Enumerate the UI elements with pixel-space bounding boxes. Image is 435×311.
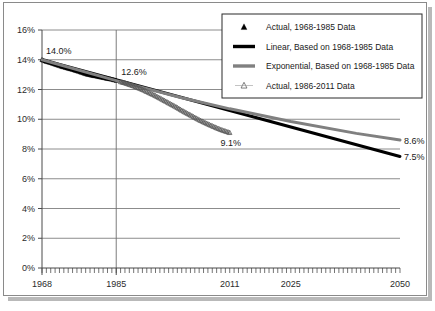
x-tick-label: 2011 (220, 279, 239, 289)
y-axis-tick-labels: 0%2%4%6%8%10%12%14%16% (17, 25, 35, 273)
x-axis-tick-labels: 19681985201120252050 (32, 279, 410, 289)
annotation-label: 14.0% (46, 46, 72, 56)
line-chart: 0%2%4%6%8%10%12%14%16% 19681985201120252… (0, 0, 435, 311)
x-tick-label: 1985 (106, 279, 126, 289)
chart-legend: Actual, 1968-1985 DataLinear, Based on 1… (222, 14, 422, 98)
y-tick-label: 0% (22, 263, 35, 273)
legend-item-label: Actual, 1986-2011 Data (266, 81, 355, 91)
x-tick-label: 2050 (390, 279, 410, 289)
y-tick-label: 8% (22, 144, 35, 154)
y-tick-label: 14% (17, 55, 35, 65)
chart-figure: 0%2%4%6%8%10%12%14%16% 19681985201120252… (0, 0, 435, 311)
annotation-label: 7.5% (404, 152, 425, 162)
legend-item-label: Actual, 1968-1985 Data (266, 22, 356, 32)
y-tick-label: 10% (17, 114, 35, 124)
x-tick-label: 1968 (32, 279, 52, 289)
annotation-label: 8.6% (404, 136, 425, 146)
annotation-label: 9.1% (220, 138, 241, 148)
legend-item-label: Exponential, Based on 1968-1985 Data (266, 61, 415, 71)
y-tick-label: 12% (17, 85, 35, 95)
annotation-label: 12.6% (121, 67, 147, 77)
y-tick-label: 6% (22, 174, 35, 184)
legend-item-label: Linear, Based on 1968-1985 Data (266, 42, 393, 52)
y-tick-label: 4% (22, 204, 35, 214)
y-tick-label: 16% (17, 25, 35, 35)
y-tick-label: 2% (22, 233, 35, 243)
x-tick-label: 2025 (281, 279, 301, 289)
